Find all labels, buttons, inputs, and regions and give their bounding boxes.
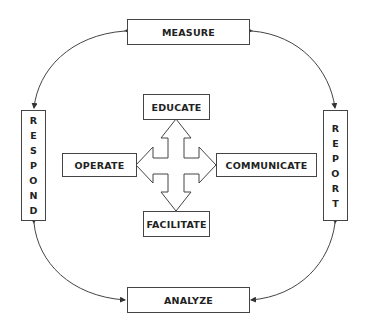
report-box: R E P O R T [323, 110, 348, 221]
report-letter: E [332, 136, 339, 151]
operate-label: OPERATE [75, 160, 125, 171]
respond-letter: S [30, 143, 37, 158]
arrow-respond-analyze [34, 223, 125, 300]
communicate-box: COMMUNICATE [216, 153, 317, 177]
report-letter: R [332, 181, 340, 196]
respond-letter: R [30, 113, 38, 128]
analyze-box: ANALYZE [127, 287, 250, 313]
arrow-report-analyze [251, 223, 335, 300]
operate-box: OPERATE [62, 153, 137, 177]
arrow-measure-respond [34, 31, 125, 108]
communicate-label: COMMUNICATE [226, 160, 308, 171]
respond-letter: N [29, 188, 37, 203]
report-letter: P [332, 151, 339, 166]
educate-box: EDUCATE [143, 94, 210, 120]
measure-box: MEASURE [127, 19, 250, 45]
educate-label: EDUCATE [151, 102, 201, 113]
report-letter: R [332, 121, 340, 136]
respond-letter: E [30, 128, 37, 143]
respond-letter: P [30, 158, 37, 173]
respond-box: R E S P O N D [21, 110, 46, 221]
facilitate-box: FACILITATE [143, 211, 210, 237]
respond-letter: O [29, 173, 37, 188]
report-letter: O [331, 166, 339, 181]
arrow-measure-report [252, 31, 335, 108]
measure-label: MEASURE [162, 27, 215, 38]
report-letter: T [332, 196, 339, 211]
analyze-label: ANALYZE [164, 295, 213, 306]
four-way-arrow-icon [136, 119, 216, 211]
facilitate-label: FACILITATE [146, 219, 206, 230]
respond-letter: D [29, 203, 37, 218]
